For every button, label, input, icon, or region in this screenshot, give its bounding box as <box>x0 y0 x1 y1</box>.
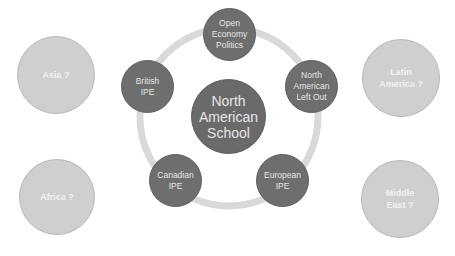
ring-node-label: British IPE <box>136 76 160 98</box>
center-node-north-american-school: North American School <box>191 79 266 154</box>
outer-node-label: Asia ? <box>42 69 69 81</box>
ring-node-label: Canadian IPE <box>157 170 193 192</box>
outer-node-label: Africa ? <box>40 191 74 203</box>
ring-node-open-economy-politics: Open Economy Politics <box>203 8 256 61</box>
ring-node-north-american-left-out: North American Left Out <box>285 60 338 113</box>
outer-node-label: Latin America ? <box>379 66 423 90</box>
ring-node-canadian-ipe: Canadian IPE <box>149 154 202 207</box>
ring-node-label: Open Economy Politics <box>212 18 247 51</box>
ring-node-european-ipe: European IPE <box>256 154 309 207</box>
outer-node-middle-east: Middle East ? <box>361 160 439 238</box>
outer-node-africa: Africa ? <box>19 159 95 235</box>
ring-node-british-ipe: British IPE <box>121 60 174 113</box>
center-node-label: North American School <box>199 93 258 141</box>
outer-node-asia: Asia ? <box>17 36 95 114</box>
outer-node-latin-america: Latin America ? <box>362 39 440 117</box>
outer-node-label: Middle East ? <box>386 187 415 211</box>
ring-node-label: European IPE <box>264 170 301 192</box>
ring-node-label: North American Left Out <box>294 70 330 103</box>
